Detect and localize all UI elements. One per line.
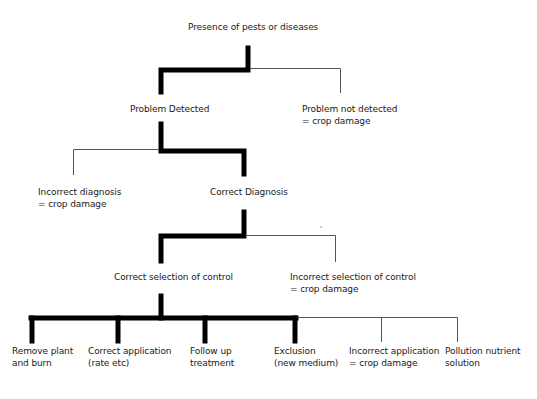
node-remove-plant: Remove plant and burn [12, 345, 73, 369]
pest-disease-decision-tree: Presence of pests or diseases Problem De… [0, 0, 537, 399]
connector-root-to-detected [161, 48, 248, 92]
node-pollution-nutrient-line2: solution [445, 357, 521, 369]
node-incorrect-application: Incorrect application = crop damage [349, 345, 439, 369]
connector-detected-to-correct-diagnosis [161, 124, 244, 174]
node-problem-detected: Problem Detected [130, 103, 209, 115]
node-pollution-nutrient: Pollution nutrient solution [445, 345, 521, 369]
node-correct-application-line1: Correct application [88, 345, 171, 357]
node-correct-diagnosis: Correct Diagnosis [210, 186, 288, 198]
node-problem-not-detected-text: Problem not detected [302, 103, 397, 115]
stray-dot [320, 226, 322, 228]
connector-root-to-not-detected [250, 69, 341, 94]
node-incorrect-application-line2: = crop damage [349, 357, 439, 369]
node-pollution-nutrient-line1: Pollution nutrient [445, 345, 521, 357]
node-exclusion-line2: (new medium) [274, 357, 338, 369]
node-incorrect-selection-text: Incorrect selection of control [290, 271, 416, 283]
node-incorrect-selection: Incorrect selection of control = crop da… [290, 271, 416, 295]
node-remove-plant-line2: and burn [12, 357, 73, 369]
node-correct-application: Correct application (rate etc) [88, 345, 171, 369]
node-problem-not-detected: Problem not detected = crop damage [302, 103, 397, 127]
node-follow-up: Follow up treatment [190, 345, 234, 369]
node-exclusion-line1: Exclusion [274, 345, 338, 357]
node-correct-diagnosis-text: Correct Diagnosis [210, 186, 288, 198]
node-incorrect-selection-outcome: = crop damage [290, 283, 416, 295]
node-root: Presence of pests or diseases [188, 21, 318, 33]
node-remove-plant-line1: Remove plant [12, 345, 73, 357]
node-exclusion: Exclusion (new medium) [274, 345, 338, 369]
node-incorrect-diagnosis: Incorrect diagnosis = crop damage [38, 186, 121, 210]
node-root-text: Presence of pests or diseases [188, 21, 318, 33]
connector-diagnosis-to-incorrect-selection [246, 236, 336, 263]
node-follow-up-line1: Follow up [190, 345, 234, 357]
node-correct-selection: Correct selection of control [114, 271, 233, 283]
node-incorrect-application-line1: Incorrect application [349, 345, 439, 357]
node-problem-not-detected-outcome: = crop damage [302, 115, 397, 127]
node-incorrect-diagnosis-text: Incorrect diagnosis [38, 186, 121, 198]
node-incorrect-diagnosis-outcome: = crop damage [38, 198, 121, 210]
node-follow-up-line2: treatment [190, 357, 234, 369]
node-problem-detected-text: Problem Detected [130, 103, 209, 115]
connector-detected-to-incorrect-diagnosis [74, 150, 160, 176]
connector-diagnosis-to-correct-selection [161, 212, 244, 261]
node-correct-selection-text: Correct selection of control [114, 271, 233, 283]
node-correct-application-line2: (rate etc) [88, 357, 171, 369]
